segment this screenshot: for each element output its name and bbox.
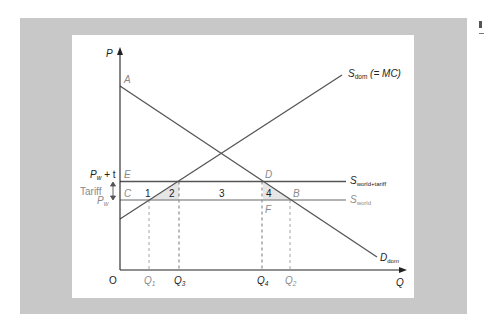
origin-label: O — [109, 275, 117, 286]
point-f-label: F — [265, 204, 272, 215]
y-axis-label: P — [106, 48, 113, 59]
q4-label: Q4 — [257, 275, 269, 287]
point-b-label: B — [293, 188, 300, 199]
point-d-label: D — [265, 169, 272, 180]
point-a-label: A — [123, 74, 131, 85]
area-4-label: 4 — [266, 188, 272, 199]
demand-dom-label: Ddom — [380, 252, 399, 264]
q2-label: Q2 — [285, 275, 297, 287]
tariff-double-arrow-icon — [111, 182, 116, 200]
point-c-label: C — [124, 188, 132, 199]
supply-dom-line — [120, 75, 342, 219]
price-pw-label: Pw — [97, 195, 110, 207]
q1-label: Q1 — [144, 275, 156, 287]
tariff-diagram: P Q O A E C D B F 1 2 3 4 Pw + t Tariff … — [0, 0, 484, 325]
s-world-label: Sworld — [350, 194, 371, 206]
area-2-label: 2 — [169, 188, 175, 199]
point-e-label: E — [124, 169, 131, 180]
supply-dom-label: Sdom (= MC) — [348, 68, 401, 80]
demand-dom-line — [120, 86, 377, 257]
area-3-label: 3 — [219, 188, 225, 199]
q3-label: Q3 — [174, 275, 186, 287]
price-pw-t-label: Pw + t — [90, 169, 116, 181]
x-axis-label: Q — [396, 277, 404, 288]
s-world-tariff-label: Sworld+tariff — [350, 175, 386, 187]
area-1-label: 1 — [145, 188, 151, 199]
